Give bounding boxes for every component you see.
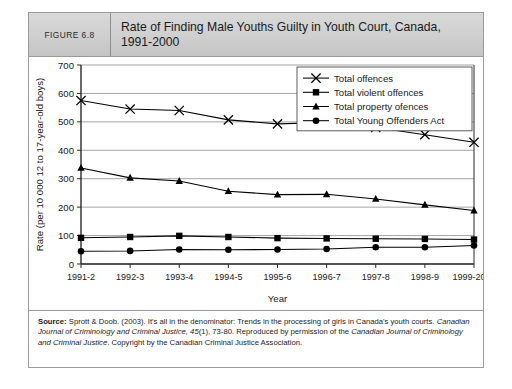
data-point-marker: [323, 235, 329, 241]
x-axis-tick-label: 1991-2: [67, 272, 95, 282]
y-axis-tick-label: 0: [69, 259, 74, 270]
source-volume: 45: [188, 327, 199, 336]
data-point-marker: [313, 117, 320, 124]
series-line: [81, 168, 474, 211]
source-note: Source: Sprott & Doob. (2003). It's all …: [29, 311, 483, 368]
data-point-marker: [422, 236, 428, 242]
line-chart: 01002003004005006007001991-21992-31993-4…: [29, 57, 483, 310]
legend-label: Total violent offences: [334, 87, 424, 98]
y-axis-tick-label: 500: [58, 116, 74, 127]
data-point-marker: [323, 190, 330, 197]
data-point-marker: [373, 235, 379, 241]
figure-container: FIGURE 6.8 Rate of Finding Male Youths G…: [28, 12, 484, 368]
source-text-part1: Sprott & Doob. (2003). It's all in the d…: [67, 317, 437, 326]
source-text-part2: (1), 73-80. Reproduced by permission of …: [199, 327, 352, 336]
data-point-marker: [176, 233, 182, 239]
figure-header-banner: FIGURE 6.8 Rate of Finding Male Youths G…: [29, 13, 483, 57]
y-axis-tick-label: 100: [58, 230, 74, 241]
x-axis-title: Year: [268, 293, 288, 304]
y-axis-tick-label: 700: [58, 60, 74, 71]
legend-label: Total Young Offenders Act: [334, 115, 445, 126]
y-axis-title: Rate (per 10 000 12 to 17-year-old boys): [34, 78, 45, 251]
chart-area: 01002003004005006007001991-21992-31993-4…: [29, 57, 483, 311]
data-point-marker: [313, 89, 319, 95]
x-axis-tick-label: 1995-6: [263, 272, 291, 282]
data-point-marker: [77, 164, 84, 171]
x-axis-tick-label: 1993-4: [165, 272, 193, 282]
x-axis-tick-label: 1997-8: [362, 272, 390, 282]
data-point-marker: [372, 244, 379, 251]
figure-title-cell: Rate of Finding Male Youths Guilty in Yo…: [111, 13, 483, 56]
y-axis-tick-label: 400: [58, 145, 74, 156]
figure-title: Rate of Finding Male Youths Guilty in Yo…: [121, 20, 475, 49]
data-point-marker: [274, 246, 281, 253]
data-point-marker: [274, 235, 280, 241]
data-point-marker: [225, 234, 231, 240]
figure-number-cell: FIGURE 6.8: [29, 13, 111, 56]
y-axis-tick-label: 300: [58, 173, 74, 184]
data-point-marker: [78, 235, 84, 241]
data-point-marker: [422, 244, 429, 251]
legend-label: Total property ofences: [334, 101, 429, 112]
source-text: Source: Sprott & Doob. (2003). It's all …: [38, 317, 474, 348]
data-point-marker: [176, 246, 183, 253]
data-point-marker: [78, 248, 85, 255]
figure-number-label: FIGURE 6.8: [44, 30, 94, 40]
data-point-marker: [225, 246, 232, 253]
data-point-marker: [471, 236, 477, 242]
x-axis-tick-label: 1998-9: [411, 272, 439, 282]
source-text-part3: . Copyright by the Canadian Criminal Jus…: [107, 338, 302, 347]
x-axis-tick-label: 1996-7: [313, 272, 341, 282]
y-axis-tick-label: 600: [58, 88, 74, 99]
data-point-marker: [323, 246, 330, 253]
x-axis-tick-label: 1992-3: [116, 272, 144, 282]
y-axis-tick-label: 200: [58, 202, 74, 213]
source-label: Source:: [38, 317, 67, 326]
x-axis-tick-label: 1994-5: [214, 272, 242, 282]
data-point-marker: [127, 234, 133, 240]
data-point-marker: [127, 248, 134, 255]
x-axis-tick-label: 1999-2000: [452, 272, 483, 282]
data-point-marker: [471, 242, 478, 249]
legend-label: Total offences: [334, 73, 393, 84]
